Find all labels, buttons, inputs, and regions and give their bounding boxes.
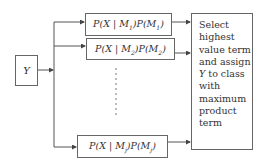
decision-line: term (199, 117, 252, 129)
decision-line: Y to class (199, 68, 252, 80)
input-y-box: Y (15, 55, 38, 86)
decision-line: value term (199, 44, 252, 56)
decision-line: with (199, 80, 252, 92)
decision-line: highest (199, 31, 252, 43)
term-box-2: P(X | M2)P(M2) (86, 38, 175, 60)
decision-line: maximum (199, 93, 252, 105)
input-y-label: Y (23, 65, 30, 76)
decision-line: Select (199, 19, 252, 31)
term-box-1: P(X | M1)P(M1) (85, 13, 172, 36)
decision-box: Select highest value term and assign Y t… (191, 13, 253, 150)
term-label-j: P(X | Mj)P(Mj) (89, 140, 156, 153)
term-label-1: P(X | M1)P(M1) (93, 18, 164, 31)
term-label-2: P(X | M2)P(M2) (95, 43, 166, 56)
decision-line: product (199, 105, 252, 117)
decision-line: and assign (199, 56, 252, 68)
term-box-j: P(X | Mj)P(Mj) (77, 135, 168, 158)
